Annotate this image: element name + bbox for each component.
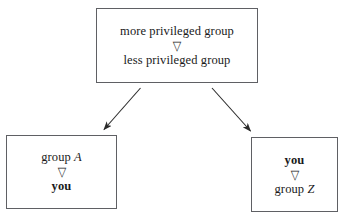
group-a-box-you-label: you bbox=[52, 179, 72, 194]
group-a-label-prefix: group bbox=[41, 150, 74, 164]
down-pointing-triangle-icon: ▽ bbox=[57, 165, 66, 179]
group-z-box-you-label: you bbox=[285, 153, 305, 168]
diagram-canvas: more privileged group ▽ less privileged … bbox=[0, 0, 344, 218]
group-z-label-prefix: group bbox=[275, 182, 308, 196]
down-pointing-triangle-icon: ▽ bbox=[173, 39, 182, 53]
privilege-hierarchy-box: more privileged group ▽ less privileged … bbox=[96, 8, 258, 83]
group-a-label-letter: A bbox=[74, 150, 82, 164]
group-z-box: you ▽ group Z bbox=[251, 137, 338, 212]
arrow-top-to-group-z bbox=[212, 88, 251, 131]
group-z-label: group Z bbox=[275, 182, 315, 197]
arrow-top-to-group-a bbox=[104, 88, 141, 130]
down-pointing-triangle-icon: ▽ bbox=[290, 168, 299, 182]
privilege-hierarchy-line-more: more privileged group bbox=[120, 24, 234, 39]
group-a-label: group A bbox=[41, 150, 82, 165]
group-a-box: group A ▽ you bbox=[6, 135, 117, 209]
privilege-hierarchy-line-less: less privileged group bbox=[124, 53, 231, 68]
group-z-label-letter: Z bbox=[307, 182, 314, 196]
